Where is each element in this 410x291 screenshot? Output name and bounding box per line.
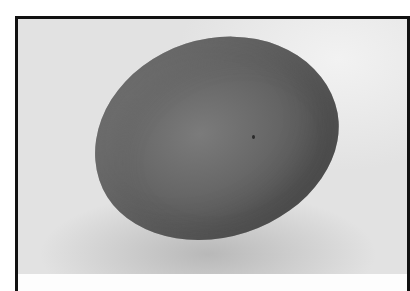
bottom-strip: [18, 274, 407, 291]
photo-frame: [15, 16, 410, 291]
egg-photo: [18, 19, 407, 274]
egg: [67, 16, 364, 270]
egg-speck: [252, 135, 255, 139]
